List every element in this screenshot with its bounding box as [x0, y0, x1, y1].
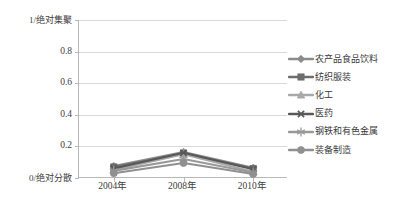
y-axis-labels: 1/绝对集聚 0.8 0.6 0.4 0.2 0/绝对分散	[0, 0, 78, 214]
legend-label: 钢铁和有色金属	[315, 127, 378, 136]
line-chart: 1/绝对集聚 0.8 0.6 0.4 0.2 0/绝对分散 2004年 2008…	[0, 0, 400, 214]
legend-item-2[interactable]: 化工	[288, 86, 400, 104]
legend-marker-circle-icon	[288, 143, 314, 157]
y-tick-label-0: 0/绝对分散	[29, 174, 72, 183]
legend-marker-x-icon	[288, 107, 314, 121]
legend-item-5[interactable]: 装备制造	[288, 141, 400, 159]
legend-label: 化工	[315, 91, 333, 100]
x-tick-label-2004: 2004年	[98, 182, 127, 192]
legend-marker-triangle-icon	[288, 88, 314, 102]
y-tick-label-0-2: 0.2	[60, 142, 72, 152]
legend-marker-square-icon	[288, 70, 314, 84]
y-tick-label-0-6: 0.6	[60, 78, 72, 88]
series-lines	[79, 20, 288, 178]
plot-area	[78, 20, 287, 178]
y-tick-label-1: 1/绝对集聚	[29, 16, 72, 25]
x-tick-label-2010: 2010年	[238, 182, 267, 192]
y-tick-label-0-8: 0.8	[60, 47, 72, 57]
legend-marker-diamond-icon	[288, 52, 314, 66]
legend-label: 装备制造	[315, 146, 351, 155]
x-tick-label-2008: 2008年	[168, 182, 197, 192]
legend-item-3[interactable]: 医药	[288, 105, 400, 123]
legend-item-1[interactable]: 纺织服装	[288, 68, 400, 86]
y-tick-label-0-4: 0.4	[60, 110, 72, 120]
legend-label: 纺织服装	[315, 73, 351, 82]
legend-item-4[interactable]: 钢铁和有色金属	[288, 123, 400, 141]
legend-label: 农产品食品饮料	[315, 55, 378, 64]
legend-marker-asterisk-icon	[288, 125, 314, 139]
legend-label: 医药	[315, 109, 333, 118]
legend: 农产品食品饮料 纺织服装 化工 医药 钢铁和有色金属 装备制造	[288, 50, 400, 159]
legend-item-0[interactable]: 农产品食品饮料	[288, 50, 400, 68]
